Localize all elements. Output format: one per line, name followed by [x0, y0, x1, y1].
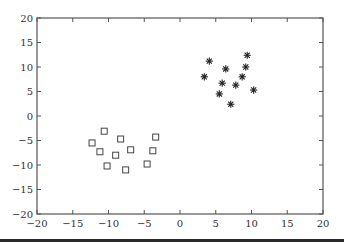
y-tick-label: 15: [20, 37, 33, 48]
x-tick-label: 15: [281, 218, 294, 229]
asterisk-marker: [239, 73, 246, 80]
asterisk-marker: [216, 90, 223, 97]
asterisk-marker: [219, 80, 226, 87]
series-class-star: [201, 52, 258, 108]
square-marker: [118, 136, 124, 142]
plot-frame: [37, 18, 323, 214]
square-marker: [89, 140, 95, 146]
x-tick-label: −5: [137, 218, 152, 229]
asterisk-marker: [232, 82, 239, 89]
y-tick-label: 5: [27, 86, 33, 97]
x-axis: −20−15−10−505101520: [26, 18, 329, 229]
y-tick-label: 0: [27, 111, 33, 122]
y-tick-label: −5: [18, 135, 33, 146]
scatter-chart: −20−15−10−505101520 −20−15−10−505101520: [0, 0, 344, 242]
data-series: [89, 52, 257, 173]
square-marker: [128, 147, 134, 153]
square-marker: [153, 134, 159, 140]
plot-border: [37, 18, 323, 214]
x-tick-label: 20: [317, 218, 330, 229]
asterisk-marker: [250, 86, 257, 93]
y-tick-label: 20: [20, 13, 33, 24]
asterisk-marker: [206, 58, 213, 65]
x-tick-label: −20: [26, 218, 47, 229]
series-class-square: [89, 128, 159, 173]
y-tick-label: −15: [12, 184, 33, 195]
square-marker: [97, 149, 103, 155]
asterisk-marker: [244, 52, 251, 59]
y-tick-label: −20: [12, 209, 33, 220]
y-tick-label: −10: [12, 160, 33, 171]
square-marker: [144, 161, 150, 167]
asterisk-marker: [222, 65, 229, 72]
square-marker: [101, 128, 107, 134]
x-tick-label: −15: [62, 218, 83, 229]
x-tick-label: −10: [98, 218, 119, 229]
square-marker: [113, 152, 119, 158]
asterisk-marker: [242, 63, 249, 70]
x-tick-label: 10: [245, 218, 258, 229]
asterisk-marker: [227, 101, 234, 108]
square-marker: [150, 148, 156, 154]
square-marker: [123, 167, 129, 173]
y-axis: −20−15−10−505101520: [12, 13, 323, 220]
x-tick-label: 0: [177, 218, 183, 229]
y-tick-label: 10: [20, 62, 33, 73]
x-tick-label: 5: [213, 218, 219, 229]
square-marker: [104, 163, 110, 169]
asterisk-marker: [201, 73, 208, 80]
